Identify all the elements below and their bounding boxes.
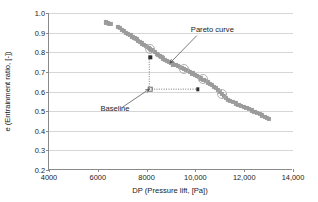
gridline (49, 52, 293, 53)
y-tick-mark (46, 33, 49, 34)
y-tick-label: 0.3 (35, 146, 45, 155)
highlight-ring (217, 89, 227, 99)
highlight-ring (145, 44, 155, 54)
chart-container: e (Entrainment ratio, [-]) 1.00.90.80.70… (0, 0, 318, 202)
x-tick-label: 12,000 (233, 173, 256, 182)
improvement-arrow-head (149, 55, 152, 58)
y-tick-mark (46, 131, 49, 132)
y-tick-label: 0.9 (35, 28, 45, 37)
y-tick-mark (46, 92, 49, 93)
gridline (49, 13, 293, 14)
y-tick-mark (46, 150, 49, 151)
plot-area: 1.00.90.80.70.60.50.40.30.2 400060008000… (48, 13, 292, 170)
data-point (109, 22, 113, 26)
gridline (49, 92, 293, 93)
highlight-ring (179, 64, 189, 74)
x-axis-title: DP (Pressure lift, [Pa]) (48, 186, 292, 195)
data-point (267, 117, 271, 121)
gridline (49, 33, 293, 34)
annotation-pareto-curve-label: Pareto curve (191, 25, 234, 34)
annotation-baseline-label: Baseline (100, 104, 129, 113)
y-tick-label: 1.0 (35, 9, 45, 18)
x-tick-mark (147, 169, 148, 172)
x-tick-label: 14,000 (282, 173, 305, 182)
x-tick-label: 10,000 (184, 173, 207, 182)
baseline-marker (148, 87, 153, 92)
x-tick-label: 8000 (138, 173, 154, 182)
y-axis-title-text: e (Entrainment ratio, [-]) (3, 51, 12, 131)
y-tick-mark (46, 13, 49, 14)
x-tick-mark (293, 169, 294, 172)
x-tick-mark (244, 169, 245, 172)
x-tick-label: 6000 (90, 173, 106, 182)
y-tick-mark (46, 111, 49, 112)
y-tick-label: 0.6 (35, 87, 45, 96)
gridline (49, 131, 293, 132)
improvement-arrow-head (196, 87, 199, 90)
y-tick-label: 0.5 (35, 107, 45, 116)
y-tick-mark (46, 72, 49, 73)
x-tick-mark (98, 169, 99, 172)
y-tick-label: 0.7 (35, 67, 45, 76)
x-tick-label: 4000 (41, 173, 57, 182)
y-axis-title: e (Entrainment ratio, [-]) (1, 13, 13, 170)
x-tick-mark (195, 169, 196, 172)
highlight-ring (198, 74, 208, 84)
y-tick-mark (46, 52, 49, 53)
y-tick-label: 0.8 (35, 48, 45, 57)
gridline (49, 72, 293, 73)
gridline (49, 150, 293, 151)
x-tick-mark (49, 169, 50, 172)
y-tick-label: 0.4 (35, 126, 45, 135)
